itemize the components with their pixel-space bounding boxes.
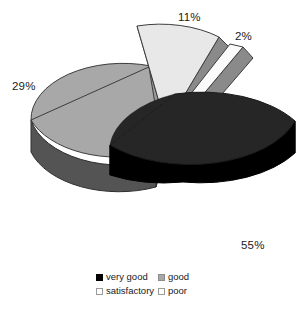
chart-legend: very good good satisfactory poor bbox=[96, 270, 226, 298]
legend-item-poor[interactable]: poor bbox=[158, 286, 216, 296]
legend-label-good: good bbox=[168, 272, 189, 282]
legend-label-satisfactory: satisfactory bbox=[106, 286, 154, 296]
legend-swatch-very-good-icon bbox=[96, 274, 103, 281]
legend-item-very-good[interactable]: very good bbox=[96, 272, 158, 282]
legend-item-satisfactory[interactable]: satisfactory bbox=[96, 286, 158, 296]
pie-chart: 11% 2% 29% 55% very good good satisfacto… bbox=[0, 0, 307, 321]
legend-label-poor: poor bbox=[168, 286, 187, 296]
data-label-poor: 2% bbox=[235, 31, 252, 43]
legend-label-very-good: very good bbox=[106, 272, 148, 282]
legend-swatch-poor-icon bbox=[158, 288, 165, 295]
pie-chart-graphic bbox=[0, 0, 307, 268]
legend-swatch-good-icon bbox=[158, 274, 165, 281]
legend-swatch-satisfactory-icon bbox=[96, 288, 103, 295]
legend-item-good[interactable]: good bbox=[158, 272, 216, 282]
data-label-good: 29% bbox=[12, 81, 36, 93]
data-label-very-good: 55% bbox=[241, 240, 265, 252]
data-label-satisfactory: 11% bbox=[178, 12, 201, 24]
